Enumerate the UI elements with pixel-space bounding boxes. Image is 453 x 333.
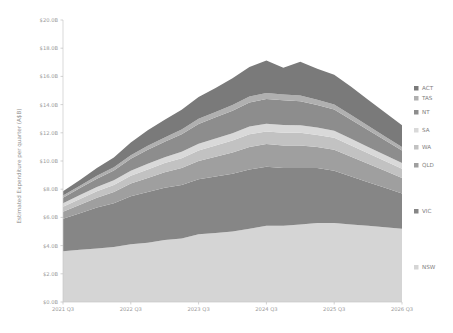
x-tick-label: 2021 Q3 [52,306,74,312]
legend-label-nsw[interactable]: NSW [422,264,436,270]
y-tick-label: $8.0B [43,186,59,192]
y-tick-label: $12.0B [40,130,59,136]
legend-label-tas[interactable]: TAS [421,95,433,101]
y-tick-label: $20.0B [40,17,59,23]
legend-swatch-vic[interactable] [414,209,419,214]
y-tick-label: $16.0B [40,73,59,79]
y-tick-label: $4.0B [43,243,59,249]
legend-label-wa[interactable]: WA [422,144,431,150]
y-tick-label: $0.0B [43,299,59,305]
legend-label-qld[interactable]: QLD [422,162,434,168]
y-tick-label: $14.0B [40,102,59,108]
y-tick-label: $2.0B [43,271,59,277]
legend-label-nt[interactable]: NT [422,109,430,115]
legend-label-sa[interactable]: SA [422,127,430,133]
stacked-area-chart: $0.0B$2.0B$4.0B$6.0B$8.0B$10.0B$12.0B$14… [0,0,453,333]
x-tick-label: 2023 Q3 [187,306,209,312]
legend-label-vic[interactable]: VIC [422,208,431,214]
x-tick-label: 2024 Q3 [255,306,277,312]
y-tick-label: $18.0B [40,45,59,51]
legend-label-act[interactable]: ACT [422,85,434,91]
legend-swatch-nsw[interactable] [414,265,419,270]
legend-swatch-tas[interactable] [414,96,419,101]
y-tick-label: $6.0B [43,214,59,220]
x-tick-label: 2025 Q3 [323,306,345,312]
legend-swatch-nt[interactable] [414,110,419,115]
x-tick-label: 2022 Q3 [120,306,142,312]
legend-swatch-act[interactable] [414,86,419,91]
y-axis-label: Estimated Expenditure per quarter (A$B) [16,109,23,224]
legend-swatch-qld[interactable] [414,163,419,168]
chart-figure: $0.0B$2.0B$4.0B$6.0B$8.0B$10.0B$12.0B$14… [0,0,453,333]
legend-swatch-sa[interactable] [414,128,419,133]
y-tick-label: $10.0B [40,158,59,164]
x-tick-label: 2026 Q3 [391,306,413,312]
legend-swatch-wa[interactable] [414,145,419,150]
